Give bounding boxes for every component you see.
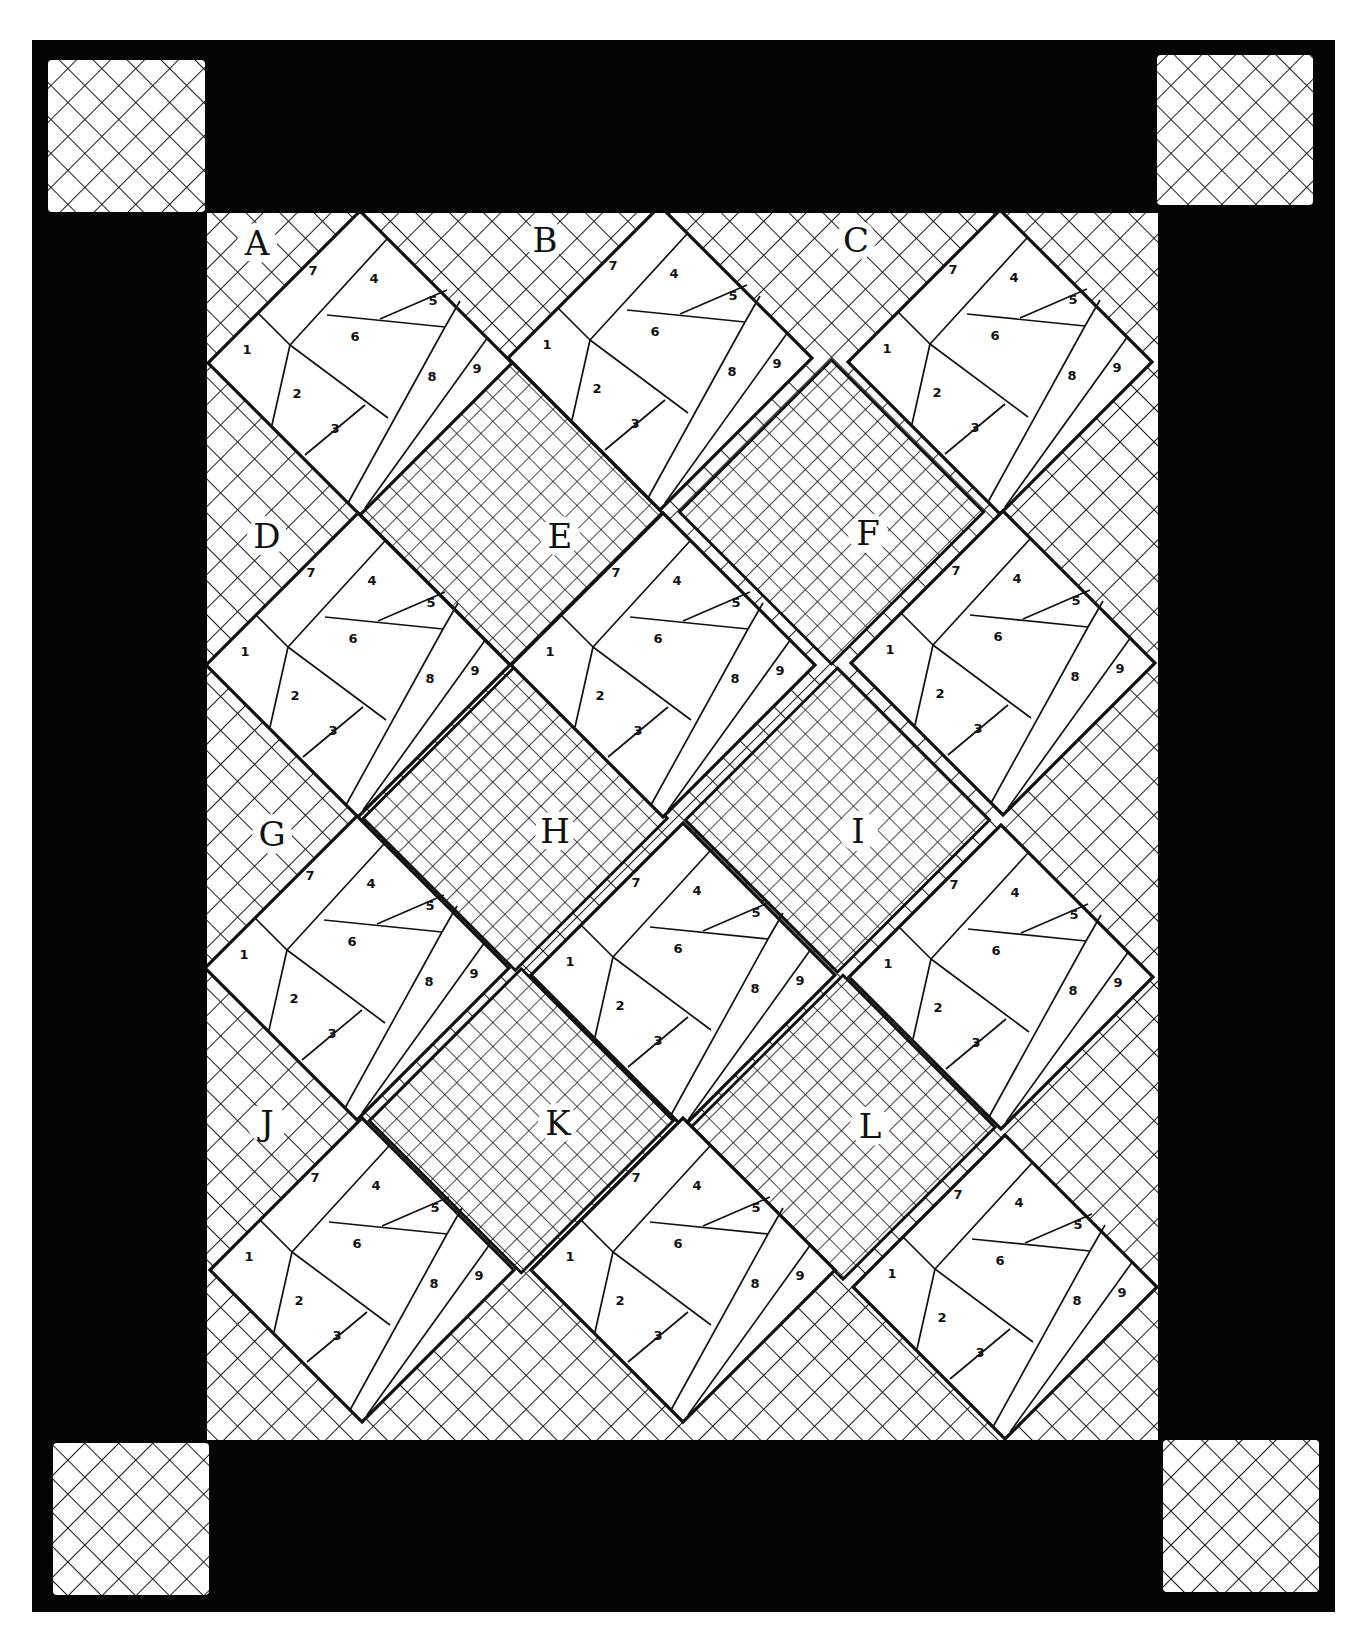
piece-number: 6 [348, 631, 357, 646]
svg-text:C: C [843, 220, 869, 260]
piece-number: 4 [1009, 270, 1018, 285]
piece-number: 1 [885, 642, 894, 657]
piece-number: 8 [750, 981, 759, 996]
piece-number: 6 [350, 329, 359, 344]
piece-number: 2 [592, 381, 601, 396]
block-label-i: I [838, 811, 878, 851]
piece-number: 5 [1069, 907, 1078, 922]
piece-number: 5 [1073, 1217, 1082, 1232]
piece-number: 2 [937, 1310, 946, 1325]
piece-number: 1 [244, 1249, 253, 1264]
svg-text:L: L [859, 1106, 882, 1146]
corner-square-top-right [1157, 55, 1313, 205]
piece-number: 1 [542, 337, 551, 352]
piece-number: 1 [565, 954, 574, 969]
piece-number: 9 [470, 663, 479, 678]
piece-number: 2 [292, 386, 301, 401]
piece-number: 4 [366, 876, 375, 891]
corner-square-top-left [48, 60, 205, 212]
svg-text:H: H [540, 811, 570, 851]
piece-number: 8 [427, 369, 436, 384]
piece-number: 1 [887, 1266, 896, 1281]
piece-number: 2 [933, 1000, 942, 1015]
piece-number: 7 [608, 258, 617, 273]
piece-number: 4 [367, 573, 376, 588]
piece-number: 3 [975, 1345, 984, 1360]
piece-number: 5 [426, 595, 435, 610]
piece-number: 2 [294, 1293, 303, 1308]
block-label-j: J [247, 1103, 287, 1143]
piece-number: 2 [289, 991, 298, 1006]
piece-number: 2 [932, 385, 941, 400]
piece-number: 4 [1010, 885, 1019, 900]
piece-number: 4 [692, 1178, 701, 1193]
piece-number: 8 [730, 671, 739, 686]
piece-number: 6 [673, 1236, 682, 1251]
block-label-h: H [535, 811, 575, 851]
piece-number: 1 [239, 947, 248, 962]
block-label-g: G [252, 814, 292, 854]
piece-number: 4 [669, 266, 678, 281]
piece-number: 8 [1068, 983, 1077, 998]
piece-number: 6 [990, 328, 999, 343]
piece-number: 2 [290, 688, 299, 703]
piece-number: 2 [595, 688, 604, 703]
piece-number: 4 [371, 1178, 380, 1193]
piece-number: 2 [615, 998, 624, 1013]
piece-number: 8 [1067, 368, 1076, 383]
block-label-b: B [525, 220, 565, 260]
piece-number: 7 [305, 868, 314, 883]
piece-number: 4 [692, 883, 701, 898]
piece-number: 7 [308, 263, 317, 278]
piece-number: 4 [672, 573, 681, 588]
quilt-diagram: 1234567891234567891234567891234567891234… [0, 0, 1353, 1626]
svg-text:F: F [856, 513, 880, 553]
piece-number: 3 [653, 1328, 662, 1343]
piece-number: 7 [953, 1187, 962, 1202]
piece-number: 5 [425, 898, 434, 913]
block-label-f: F [848, 513, 888, 553]
piece-number: 1 [240, 644, 249, 659]
block-label-l: L [850, 1106, 890, 1146]
block-label-d: D [247, 516, 287, 556]
piece-number: 5 [430, 1200, 439, 1215]
block-label-e: E [540, 516, 580, 556]
piece-number: 6 [673, 941, 682, 956]
piece-number: 6 [352, 1236, 361, 1251]
piece-number: 8 [727, 364, 736, 379]
corner-square-bottom-right [1163, 1440, 1319, 1592]
piece-number: 5 [751, 905, 760, 920]
piece-number: 9 [469, 966, 478, 981]
block-label-k: K [538, 1103, 578, 1143]
piece-number: 9 [772, 356, 781, 371]
piece-number: 3 [973, 721, 982, 736]
piece-number: 8 [425, 671, 434, 686]
piece-number: 6 [347, 934, 356, 949]
piece-number: 8 [1072, 1293, 1081, 1308]
piece-number: 5 [1071, 593, 1080, 608]
piece-number: 5 [1068, 292, 1077, 307]
piece-number: 3 [327, 1026, 336, 1041]
piece-number: 9 [1113, 975, 1122, 990]
svg-text:D: D [253, 516, 280, 556]
piece-number: 6 [993, 629, 1002, 644]
block-label-a: A [237, 223, 277, 263]
piece-number: 5 [728, 288, 737, 303]
piece-number: 8 [750, 1276, 759, 1291]
piece-number: 9 [775, 663, 784, 678]
piece-number: 3 [633, 723, 642, 738]
piece-number: 1 [565, 1249, 574, 1264]
piece-number: 9 [795, 1268, 804, 1283]
piece-number: 9 [472, 361, 481, 376]
piece-number: 6 [991, 943, 1000, 958]
piece-number: 9 [1117, 1285, 1126, 1300]
piece-number: 2 [935, 686, 944, 701]
piece-number: 2 [615, 1293, 624, 1308]
piece-number: 7 [948, 262, 957, 277]
svg-text:E: E [548, 516, 573, 556]
piece-number: 3 [970, 420, 979, 435]
piece-number: 5 [751, 1200, 760, 1215]
piece-number: 4 [1014, 1195, 1023, 1210]
piece-number: 4 [369, 271, 378, 286]
piece-number: 3 [971, 1035, 980, 1050]
